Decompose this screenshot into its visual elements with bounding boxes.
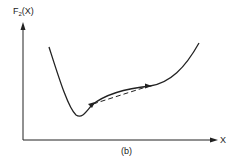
function-plot xyxy=(0,0,230,160)
x-axis-arrow-icon xyxy=(210,138,218,143)
function-curve xyxy=(49,43,199,116)
y-axis-arrow-icon xyxy=(21,22,26,30)
arrow-point-right-icon xyxy=(145,84,152,89)
arrow-point-left-icon xyxy=(88,102,95,108)
axes xyxy=(21,22,219,143)
x-axis-label: X xyxy=(220,136,226,145)
figure-caption: (b) xyxy=(121,147,132,156)
dashed-chord xyxy=(93,87,146,104)
